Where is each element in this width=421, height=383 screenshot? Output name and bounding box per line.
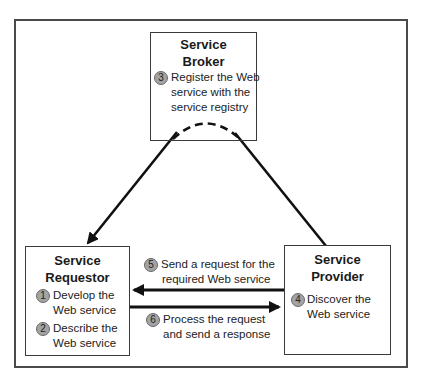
requestor-step-text: Web service [53,303,116,318]
service-requestor-box: Service Requestor 1 Develop the Web serv… [25,246,130,356]
requestor-title-line1: Service [26,252,129,269]
service-provider-box: Service Provider 4 Discover the Web serv… [284,245,391,355]
provider-title-line2: Provider [285,268,390,285]
provider-step-text: Web service [307,307,370,322]
requestor-step-text: Develop the [53,288,114,303]
requestor-title-line2: Requestor [26,269,129,286]
requestor-step-text: Describe the [53,321,118,336]
broker-to-requestor-arrow [88,132,177,243]
broker-to-provider-line [235,133,326,246]
provider-title-line1: Service [285,251,390,268]
message-5-text: Send a request for the [161,257,275,272]
message-6-text: and send a response [163,327,270,342]
requestor-step-text: Web service [53,336,116,351]
broker-step-text: Register the Web [171,70,260,85]
broker-title-line1: Service [151,36,256,53]
step-badge-6: 6 [146,313,160,327]
broker-step-text: service registry [171,100,248,115]
step-badge-5: 5 [144,258,158,272]
provider-step-text: Discover the [307,292,371,307]
step-badge-4: 4 [291,293,305,307]
service-broker-box: Service Broker 3 Register the Web servic… [150,32,257,141]
broker-step-text: service with the [171,85,250,100]
broker-title-line2: Broker [151,53,256,70]
message-5-text: required Web service [162,272,270,287]
step-badge-1: 1 [36,289,50,303]
step-badge-3: 3 [154,71,168,85]
message-6-text: Process the request [163,312,265,327]
step-badge-2: 2 [36,322,50,336]
